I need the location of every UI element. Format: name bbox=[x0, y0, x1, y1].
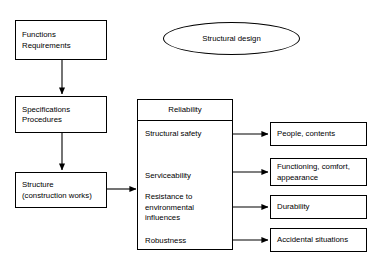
ellipse-structural-design-label: Structural design bbox=[164, 33, 299, 44]
panel-item-serviceability: Serviceability bbox=[145, 171, 191, 182]
node-people-contents-label: People, contents bbox=[277, 129, 335, 140]
ellipse-structural-design: Structural design bbox=[163, 22, 300, 55]
node-functioning-comfort-appearance-label: Functioning, comfort, appearance bbox=[277, 162, 350, 183]
node-functions-requirements: Functions Requirements bbox=[15, 20, 107, 60]
panel-reliability-header: Reliability bbox=[138, 100, 232, 121]
panel-item-structural-safety: Structural safety bbox=[145, 129, 201, 140]
node-durability-label: Durability bbox=[277, 202, 310, 213]
node-specifications-procedures-label: Specifications Procedures bbox=[22, 104, 70, 125]
node-people-contents: People, contents bbox=[270, 122, 367, 146]
diagram-canvas: Functions Requirements Specifications Pr… bbox=[0, 0, 385, 264]
node-durability: Durability bbox=[270, 195, 367, 219]
node-specifications-procedures: Specifications Procedures bbox=[15, 96, 107, 133]
panel-reliability: Reliability Structural safety Serviceabi… bbox=[137, 99, 233, 250]
node-structure-label: Structure (construction works) bbox=[22, 180, 92, 201]
node-accidental-situations-label: Accidental situations bbox=[277, 235, 348, 246]
panel-item-robustness: Robustness bbox=[145, 236, 186, 247]
node-functions-requirements-label: Functions Requirements bbox=[22, 30, 71, 51]
node-accidental-situations: Accidental situations bbox=[270, 228, 367, 252]
panel-item-resistance-to-environmental-influences: Resistance to environmental influences bbox=[145, 192, 194, 224]
node-functioning-comfort-appearance: Functioning, comfort, appearance bbox=[270, 158, 367, 186]
node-structure: Structure (construction works) bbox=[15, 172, 107, 208]
